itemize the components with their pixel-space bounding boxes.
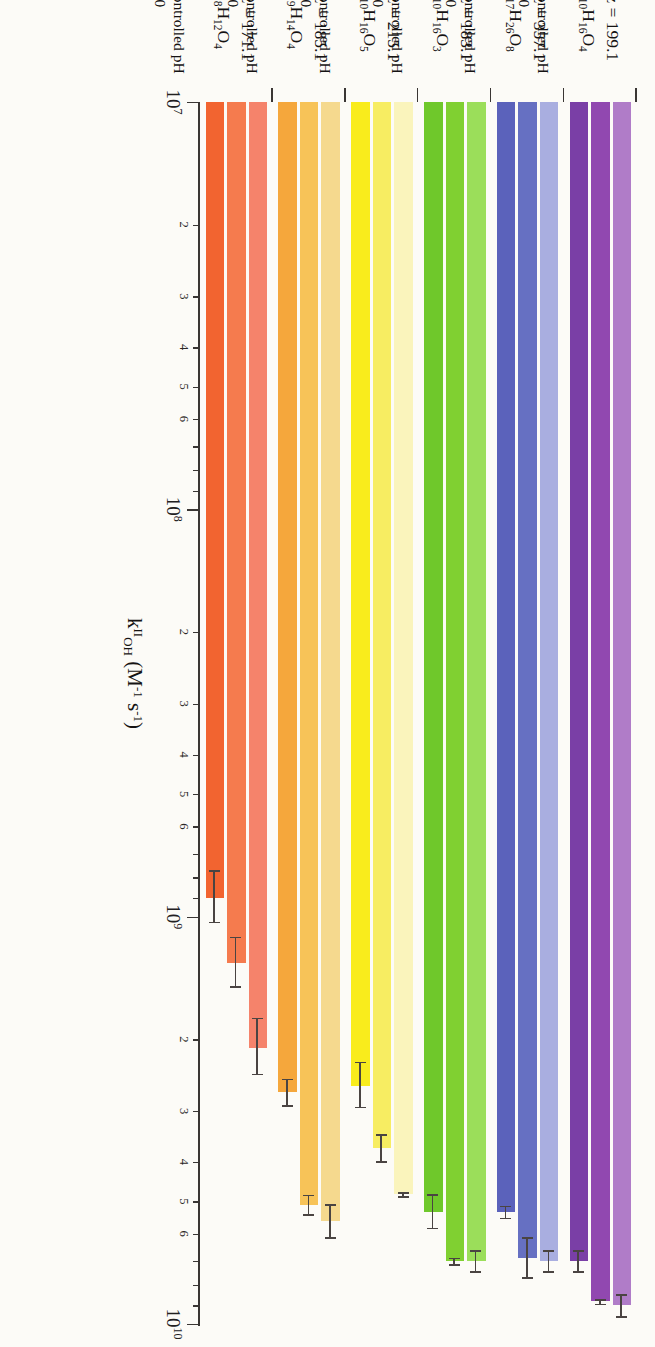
bar-171.1-ph-10 <box>249 102 268 1048</box>
axis-tick-minor-label: 3 <box>176 293 191 299</box>
legend-item: pH 2 <box>554 0 571 74</box>
error-bar-cap <box>616 1294 627 1296</box>
axis-tick-minor-label: 6 <box>176 416 191 422</box>
error-bar <box>381 1134 383 1161</box>
axis-tick-minor <box>193 877 200 878</box>
error-bar <box>286 1079 288 1105</box>
error-bar <box>308 1195 310 1214</box>
legend-357.1: pH 2Uncontrolled pHpH 10 <box>443 0 498 74</box>
bar-357.1-ph-10 <box>540 102 559 1261</box>
group-separator-tick <box>635 88 637 102</box>
error-bar-cap <box>209 870 220 872</box>
error-bar-cap <box>303 1195 314 1197</box>
error-bar-cap <box>209 922 220 924</box>
group-mz-label: m/z = 199.1 <box>602 0 623 94</box>
bar-183.1-uncontrolled-ph <box>446 102 465 1261</box>
legend-183.1: pH 2Uncontrolled pHpH 10 <box>370 0 425 74</box>
legend-item: Uncontrolled pH <box>243 0 260 74</box>
error-bar-cap <box>573 1271 584 1273</box>
axis-tick-minor <box>193 347 200 348</box>
error-bar-cap <box>230 937 241 939</box>
legend-label: pH 10 <box>369 0 387 7</box>
error-bar-cap <box>398 1192 409 1194</box>
legend-item: pH 10 <box>297 0 314 74</box>
legend-185.1: pH 2Uncontrolled pHpH 10 <box>224 0 279 74</box>
error-bar-cap <box>282 1105 293 1107</box>
legend-item: pH 2 <box>262 0 279 74</box>
legend-label: Uncontrolled pH <box>388 0 406 74</box>
bar-215.1-ph-2 <box>351 102 370 1086</box>
legend-item: Uncontrolled pH <box>316 0 333 74</box>
legend-171.1: pH 2Uncontrolled pHpH 10 <box>151 0 206 74</box>
legend-item: pH 2 <box>189 0 206 74</box>
legend-label: pH 10 <box>442 0 460 7</box>
axis-tick-minor <box>193 470 200 471</box>
bar-357.1-ph-2 <box>497 102 516 1212</box>
legend-item: Uncontrolled pH <box>389 0 406 74</box>
axis-tick-minor-label: 5 <box>176 384 191 390</box>
axis-tick-label: 1010 <box>162 1309 185 1340</box>
bar-215.1-ph-10 <box>394 102 413 1194</box>
bar-185.1-uncontrolled-ph <box>300 102 319 1205</box>
axis-tick-label: 108 <box>162 497 185 522</box>
axis-tick-minor-label: 6 <box>176 823 191 829</box>
error-bar-cap <box>500 1218 511 1220</box>
axis-title-units-exp1: -1 <box>131 687 146 698</box>
legend-label: pH 10 <box>515 0 533 7</box>
error-bar-cap <box>573 1250 584 1252</box>
axis-tick-minor-label: 2 <box>176 221 191 227</box>
bar-199.1-ph-10 <box>613 102 632 1305</box>
error-bar <box>235 937 237 986</box>
error-bar-cap <box>427 1228 438 1230</box>
axis-tick-minor <box>193 1039 200 1040</box>
chart-page: 1072345610823456109234561010 m/z = 171.1… <box>0 0 655 1347</box>
axis-title-symbol: k <box>123 618 147 629</box>
legend-199.1: pH 2Uncontrolled pHpH 10 <box>516 0 571 74</box>
axis-tick-minor <box>193 794 200 795</box>
axis-tick-minor <box>193 1111 200 1112</box>
figure: 1072345610823456109234561010 m/z = 171.1… <box>0 0 655 1347</box>
error-bar-cap <box>325 1204 336 1206</box>
legend-item: pH 2 <box>481 0 498 74</box>
axis-tick-minor <box>193 419 200 420</box>
error-bar <box>432 1194 434 1227</box>
bar-171.1-ph-2 <box>206 102 225 898</box>
axis-tick-minor <box>193 632 200 633</box>
error-bar-cap <box>595 1299 606 1301</box>
legend-item: pH 10 <box>151 0 168 74</box>
error-bar <box>475 1250 477 1271</box>
error-bar <box>256 1018 258 1074</box>
axis-tick-minor <box>193 898 200 899</box>
bar-185.1-ph-2 <box>279 102 298 1092</box>
group-separator-tick <box>490 88 492 102</box>
axis-tick-minor <box>193 755 200 756</box>
axis-tick-minor-label: 4 <box>176 751 191 757</box>
legend-item: Uncontrolled pH <box>462 0 479 74</box>
axis-tick-minor <box>193 491 200 492</box>
error-bar-cap <box>282 1079 293 1081</box>
error-bar-cap <box>230 986 241 988</box>
axis-tick-minor <box>193 1162 200 1163</box>
legend-item: pH 2 <box>408 0 425 74</box>
error-bar-cap <box>252 1074 263 1076</box>
error-bar-cap <box>616 1316 627 1318</box>
axis-tick-minor-label: 6 <box>176 1231 191 1237</box>
error-bar-cap <box>376 1161 387 1163</box>
error-bar <box>359 1062 361 1107</box>
axis-title-units-open: (M <box>123 661 147 687</box>
error-bar-cap <box>252 1018 263 1020</box>
legend-label: pH 10 <box>297 0 315 7</box>
axis-tick-minor <box>193 1261 200 1262</box>
legend-item: pH 10 <box>443 0 460 74</box>
axis-tick-major <box>187 1324 200 1325</box>
axis-tick-minor-label: 3 <box>176 1108 191 1114</box>
bar-183.1-ph-10 <box>467 102 486 1261</box>
error-bar-cap <box>355 1107 366 1109</box>
legend-item: pH 2 <box>335 0 352 74</box>
axis-tick-minor <box>193 1234 200 1235</box>
group-separator-tick <box>271 88 273 102</box>
error-bar-cap <box>325 1237 336 1239</box>
axis-tick-minor-label: 5 <box>176 791 191 797</box>
bar-199.1-ph-2 <box>570 102 589 1261</box>
axis-title: kIIOH (M-1 s-1) <box>120 0 147 1347</box>
